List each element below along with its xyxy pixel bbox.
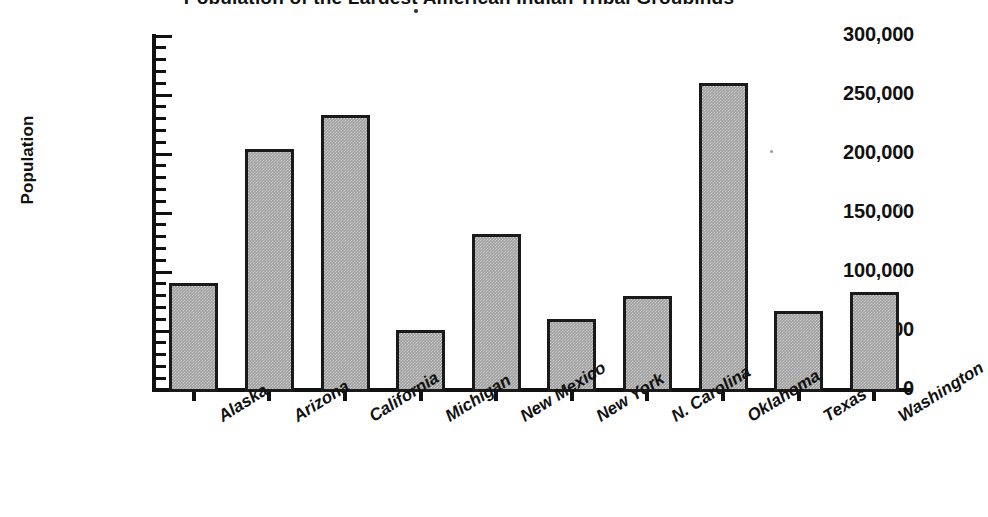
x-axis-tick <box>192 392 196 401</box>
bar <box>169 283 218 392</box>
bar <box>245 149 294 392</box>
x-axis-tick-label: Texas <box>819 410 830 427</box>
y-axis-minor-tick <box>156 318 166 321</box>
y-axis-minor-tick <box>156 176 166 179</box>
y-axis-minor-tick <box>156 259 166 262</box>
y-axis-minor-tick <box>156 164 166 167</box>
y-axis-minor-tick <box>156 306 166 309</box>
y-axis-tick-label: 300,000 <box>770 23 918 46</box>
x-axis-tick-label: Oklahoma <box>744 410 755 427</box>
x-axis-tick-label: Arizona <box>290 410 301 427</box>
y-axis-minor-tick <box>156 377 166 380</box>
y-axis-minor-tick <box>156 282 166 285</box>
x-axis-tick-label: Washington <box>895 410 906 427</box>
scan-speckle <box>898 205 901 208</box>
x-axis-tick-label: N. Carolina <box>668 410 679 427</box>
y-axis-tick-label: 100,000 <box>770 259 918 282</box>
x-axis-tick-label: Michigan <box>441 410 452 427</box>
x-axis-tick-label: California <box>366 410 377 427</box>
y-axis-minor-tick <box>156 188 166 191</box>
y-axis-major-tick <box>156 35 172 38</box>
x-axis-tick <box>872 392 876 401</box>
y-axis-minor-tick <box>156 235 166 238</box>
y-axis-minor-tick <box>156 117 166 120</box>
y-axis-minor-tick <box>156 70 166 73</box>
y-axis-tick-label: 150,000 <box>770 200 918 223</box>
y-axis-major-tick <box>156 153 172 156</box>
bar <box>472 234 521 392</box>
y-axis-minor-tick <box>156 200 166 203</box>
y-axis-minor-tick <box>156 129 166 132</box>
y-axis-title: Population <box>18 70 38 250</box>
bar <box>321 115 370 392</box>
chart-title: Population of the Largest American India… <box>0 0 918 4</box>
y-axis-tick-label: 200,000 <box>770 141 918 164</box>
y-axis-minor-tick <box>156 82 166 85</box>
y-axis-major-tick <box>156 212 172 215</box>
y-axis-major-tick <box>156 94 172 97</box>
scan-speckle <box>770 150 773 153</box>
y-axis-minor-tick <box>156 247 166 250</box>
y-axis-minor-tick <box>156 341 166 344</box>
y-axis-minor-tick <box>156 58 166 61</box>
bar <box>699 83 748 392</box>
y-axis-minor-tick <box>156 105 166 108</box>
x-axis-tick-label: Alaska <box>214 410 225 427</box>
y-axis-minor-tick <box>156 141 166 144</box>
y-axis-major-tick <box>156 271 172 274</box>
bar <box>850 292 899 392</box>
y-axis-minor-tick <box>156 294 166 297</box>
scan-speckle <box>414 9 418 13</box>
y-axis-minor-tick <box>156 353 166 356</box>
x-axis-tick-label: New York <box>592 410 603 427</box>
y-axis-minor-tick <box>156 223 166 226</box>
y-axis-minor-tick <box>156 365 166 368</box>
y-axis-minor-tick <box>156 46 166 49</box>
x-axis-tick-label: New Mexico <box>517 410 528 427</box>
y-axis-tick-label: 250,000 <box>770 82 918 105</box>
